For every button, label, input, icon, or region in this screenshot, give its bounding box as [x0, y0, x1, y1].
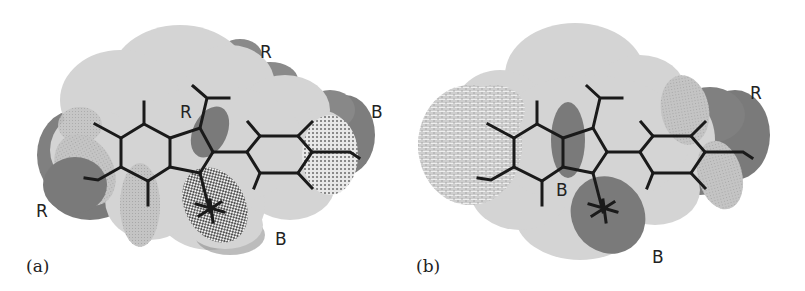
figure: R R B R B (a)	[0, 0, 805, 291]
region-label-blue: B	[371, 102, 383, 122]
region-label-blue: B	[652, 247, 664, 267]
panel-b: R B B (b)	[416, 23, 770, 276]
region-label-red: R	[180, 102, 192, 122]
region-label-red: R	[36, 201, 48, 221]
panel-caption-a: (a)	[26, 256, 49, 276]
region-label-red: R	[750, 83, 762, 103]
panel-caption-b: (b)	[416, 256, 440, 276]
panel-a: R R B R B (a)	[26, 25, 383, 276]
region-label-blue: B	[556, 180, 568, 200]
region-label-red: R	[260, 42, 272, 62]
molecular-surface-b	[418, 23, 770, 268]
region-label-blue: B	[275, 229, 287, 249]
